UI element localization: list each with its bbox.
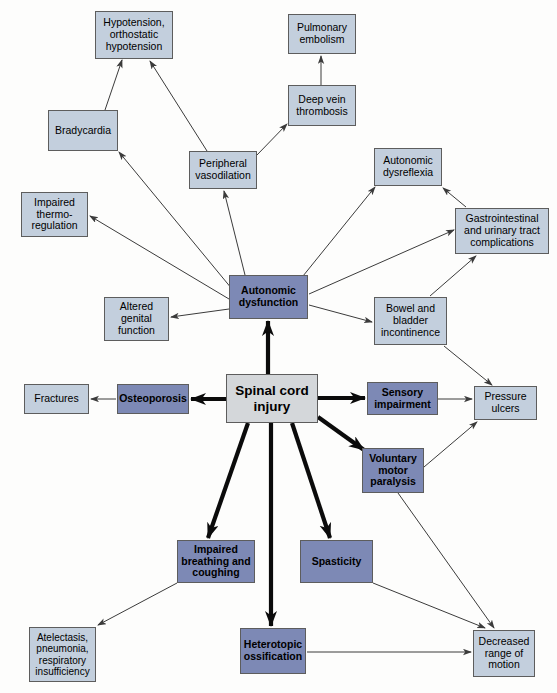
edge-bowel-bladder-incontinence-to-pressure-ulcers	[444, 346, 492, 385]
node-osteoporosis[interactable]: Osteoporosis	[117, 384, 189, 414]
node-sensory-impairment[interactable]: Sensory impairment	[367, 382, 438, 415]
edge-bradycardia-to-hypotension	[105, 60, 122, 110]
node-bradycardia[interactable]: Bradycardia	[48, 110, 118, 151]
node-autonomic-dysfunction[interactable]: Autonomic dysfunction	[229, 275, 308, 319]
node-hypotension[interactable]: Hypotension, orthostatic hypotension	[95, 11, 173, 59]
edge-voluntary-motor-paralysis-to-pressure-ulcers	[424, 422, 477, 467]
node-spinal-cord-injury[interactable]: Spinal cord injury	[226, 374, 318, 423]
node-peripheral-vasodilation[interactable]: Peripheral vasodilation	[189, 151, 257, 189]
node-impaired-thermoregulation[interactable]: Impaired thermo- regulation	[21, 192, 88, 237]
node-bowel-bladder-incontinence[interactable]: Bowel and bladder incontinence	[374, 297, 447, 345]
node-gastrointestinal-urinary[interactable]: Gastrointestinal and urinary tract compl…	[455, 208, 549, 254]
node-pressure-ulcers[interactable]: Pressure ulcers	[474, 386, 537, 420]
edge-autonomic-dysfunction-to-bowel-bladder-incontinence	[309, 305, 372, 322]
edge-autonomic-dysfunction-to-peripheral-vasodilation	[224, 191, 245, 275]
concept-map-diagram: Hypotension, orthostatic hypotensionPulm…	[0, 0, 557, 693]
node-heterotopic-ossification[interactable]: Heterotopic ossification	[240, 628, 306, 674]
edge-autonomic-dysfunction-to-impaired-thermoregulation	[90, 216, 229, 299]
node-spasticity[interactable]: Spasticity	[300, 540, 373, 583]
node-impaired-breathing[interactable]: Impaired breathing and coughing	[177, 540, 255, 583]
node-fractures[interactable]: Fractures	[24, 384, 89, 414]
edge-peripheral-vasodilation-to-hypotension	[150, 61, 207, 151]
edge-spinal-cord-injury-to-impaired-breathing	[208, 423, 248, 538]
edge-layer	[0, 0, 557, 693]
edge-peripheral-vasodilation-to-deep-vein-thrombosis	[257, 124, 287, 155]
edge-impaired-breathing-to-atelectasis	[98, 583, 177, 625]
edge-gastrointestinal-urinary-to-autonomic-dysreflexia	[443, 188, 466, 207]
edge-spasticity-to-decreased-range-of-motion	[373, 583, 485, 628]
node-deep-vein-thrombosis[interactable]: Deep vein thrombosis	[288, 85, 356, 126]
edge-bowel-bladder-incontinence-to-gastrointestinal-urinary	[430, 256, 476, 296]
node-autonomic-dysreflexia[interactable]: Autonomic dysreflexia	[374, 148, 442, 186]
node-decreased-range-of-motion[interactable]: Decreased range of motion	[473, 630, 535, 677]
edge-spinal-cord-injury-to-spasticity	[292, 423, 330, 538]
node-pulmonary-embolism[interactable]: Pulmonary embolism	[288, 14, 356, 54]
edge-voluntary-motor-paralysis-to-decreased-range-of-motion	[398, 493, 494, 628]
edge-spinal-cord-injury-to-voluntary-motor-paralysis	[318, 417, 364, 450]
edge-autonomic-dysfunction-to-altered-genital-function	[171, 309, 229, 317]
node-voluntary-motor-paralysis[interactable]: Voluntary motor paralysis	[362, 448, 424, 493]
node-altered-genital-function[interactable]: Altered genital function	[104, 297, 169, 341]
node-atelectasis[interactable]: Atelectasis, pneumonia, respiratory insu…	[29, 627, 96, 682]
edge-autonomic-dysfunction-to-gastrointestinal-urinary	[309, 230, 454, 294]
edge-autonomic-dysfunction-to-autonomic-dysreflexia	[303, 187, 375, 276]
